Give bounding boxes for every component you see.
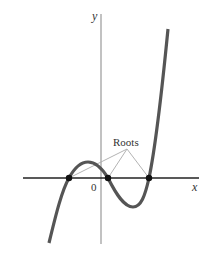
cubic-curve <box>49 29 168 243</box>
origin-label: 0 <box>91 181 97 193</box>
root-point-3 <box>146 175 152 181</box>
cubic-graph: y x 0 Roots <box>0 0 214 259</box>
root-point-2 <box>105 175 111 181</box>
x-axis-label: x <box>191 180 198 194</box>
roots-label: Roots <box>113 136 139 148</box>
root-point-1 <box>66 175 72 181</box>
y-axis-label: y <box>91 9 98 23</box>
